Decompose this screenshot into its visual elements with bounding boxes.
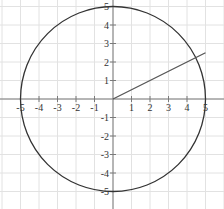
line-segment <box>113 53 206 99</box>
y-tick-label: 1 <box>104 75 109 86</box>
y-tick-label: -2 <box>101 131 109 142</box>
grid-lines <box>0 0 224 209</box>
x-tick-label: -1 <box>90 102 98 113</box>
y-tick-label: -4 <box>101 168 109 179</box>
y-tick-label: -1 <box>101 112 109 123</box>
axes <box>0 0 224 209</box>
x-tick-label: -4 <box>35 102 43 113</box>
y-tick-label: 4 <box>104 20 109 31</box>
y-tick-label: 3 <box>104 38 109 49</box>
x-tick-labels: -5-4-3-2-112345 <box>16 102 208 113</box>
x-tick-label: 3 <box>166 102 171 113</box>
x-tick-label: -3 <box>53 102 61 113</box>
y-tick-label: 2 <box>104 57 109 68</box>
x-tick-label: 4 <box>185 102 190 113</box>
x-tick-label: 2 <box>148 102 153 113</box>
x-tick-label: -2 <box>72 102 80 113</box>
chart-plot: -5-4-3-2-112345 54321-1-2-3-4-5 <box>0 0 224 209</box>
y-tick-label: -3 <box>101 149 109 160</box>
x-tick-label: 1 <box>129 102 134 113</box>
